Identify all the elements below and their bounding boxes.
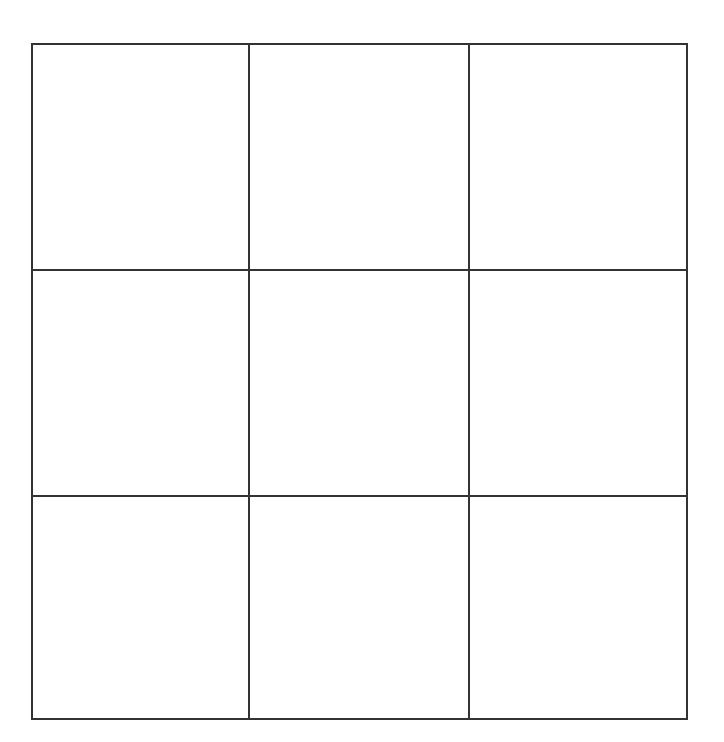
cell-r3-c2[interactable] — [250, 497, 470, 718]
cell-r1-c3[interactable] — [470, 45, 686, 271]
cell-r2-c2[interactable] — [250, 271, 470, 497]
cell-r3-c1[interactable] — [33, 497, 250, 718]
cell-r2-c1[interactable] — [33, 271, 250, 497]
tic-tac-toe-board — [31, 43, 688, 720]
cell-r3-c3[interactable] — [470, 497, 686, 718]
cell-r2-c3[interactable] — [470, 271, 686, 497]
cell-r1-c2[interactable] — [250, 45, 470, 271]
cell-r1-c1[interactable] — [33, 45, 250, 271]
